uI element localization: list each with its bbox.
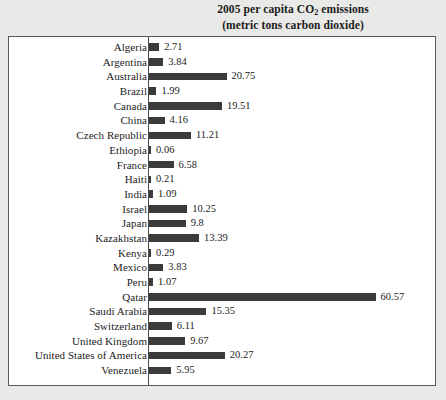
bar-value-label: 19.51	[227, 99, 251, 114]
bar-value-label: 9.67	[190, 334, 208, 349]
bar-track: 1.09	[149, 187, 444, 202]
bar-track: 15.35	[149, 304, 444, 319]
bar-track: 0.29	[149, 246, 444, 261]
bar-row: Peru1.07	[0, 275, 446, 290]
bar-row: Australia20.75	[0, 69, 446, 84]
bar-track: 1.99	[149, 84, 444, 99]
bar-category-label: Switzerland	[94, 319, 147, 334]
bar-value-label: 1.09	[158, 187, 176, 202]
bar-row: Ethiopia0.06	[0, 143, 446, 158]
bar-row: India1.09	[0, 187, 446, 202]
bar-value-label: 20.75	[232, 69, 256, 84]
bar-category-label: Peru	[127, 275, 147, 290]
bar	[149, 367, 171, 375]
bar-category-label: France	[117, 158, 147, 173]
bar	[149, 308, 206, 316]
bar-row: Israel10.25	[0, 202, 446, 217]
bar-category-label: Venezuela	[101, 363, 147, 378]
bar-value-label: 5.95	[176, 363, 194, 378]
bar-value-label: 1.99	[161, 84, 179, 99]
bar-track: 9.8	[149, 216, 444, 231]
bar-value-label: 3.84	[168, 55, 186, 70]
chart-subtitle: (metric tons carbon dioxide)	[148, 18, 438, 32]
bar	[149, 58, 163, 66]
bar-category-label: Haiti	[125, 172, 147, 187]
bar	[149, 278, 153, 286]
bar-category-label: Argentina	[103, 55, 147, 70]
bar-track: 19.51	[149, 99, 444, 114]
bar-category-label: Saudi Arabia	[89, 304, 147, 319]
bar-category-label: Kazakhstan	[95, 231, 147, 246]
bar-value-label: 10.25	[192, 202, 216, 217]
chart-figure: 2005 per capita CO2 emissions (metric to…	[0, 0, 446, 400]
bar-value-label: 15.35	[211, 304, 235, 319]
bar-row: Brazil1.99	[0, 84, 446, 99]
bar-row: Japan9.8	[0, 216, 446, 231]
bar-value-label: 4.16	[170, 113, 188, 128]
bar-row: Argentina3.84	[0, 55, 446, 70]
bar-row: Czech Republic11.21	[0, 128, 446, 143]
bar-value-label: 2.71	[164, 40, 182, 55]
bar-category-label: Mexico	[113, 260, 147, 275]
bar-value-label: 6.11	[177, 319, 195, 334]
bar-row: Algeria2.71	[0, 40, 446, 55]
bar-row: China4.16	[0, 113, 446, 128]
bar-track: 1.07	[149, 275, 444, 290]
bar-category-label: United States of America	[35, 348, 147, 363]
bar-track: 11.21	[149, 128, 444, 143]
bar-value-label: 3.83	[168, 260, 186, 275]
bar-row: Canada19.51	[0, 99, 446, 114]
bar	[149, 352, 225, 360]
bar-value-label: 0.21	[156, 172, 174, 187]
bar-value-label: 6.58	[179, 158, 197, 173]
bar-category-label: Qatar	[122, 290, 147, 305]
bar	[149, 102, 222, 110]
bar-category-label: Brazil	[120, 84, 147, 99]
bar	[149, 146, 151, 154]
bar-track: 60.57	[149, 290, 444, 305]
bar-track: 20.27	[149, 348, 444, 363]
bar-track: 20.75	[149, 69, 444, 84]
bar-row: Kazakhstan13.39	[0, 231, 446, 246]
bar	[149, 249, 151, 257]
bar-category-label: Australia	[106, 69, 147, 84]
bar-track: 6.11	[149, 319, 444, 334]
bar	[149, 161, 174, 169]
bar-track: 3.83	[149, 260, 444, 275]
bar-track: 2.71	[149, 40, 444, 55]
bar-track: 6.58	[149, 158, 444, 173]
bar	[149, 234, 199, 242]
bar	[149, 190, 153, 198]
chart-title-line-1: 2005 per capita CO2 emissions	[148, 2, 438, 18]
bar-value-label: 20.27	[230, 348, 254, 363]
chart-title-prefix: 2005 per capita CO	[217, 3, 314, 15]
bar	[149, 87, 156, 95]
bar	[149, 337, 185, 345]
bar	[149, 43, 159, 51]
bar-category-label: Kenya	[118, 246, 147, 261]
bar-track: 13.39	[149, 231, 444, 246]
bar-value-label: 13.39	[204, 231, 228, 246]
bar-row: Haiti0.21	[0, 172, 446, 187]
bar-value-label: 60.57	[381, 290, 405, 305]
bar-track: 3.84	[149, 55, 444, 70]
co2-subscript: 2	[314, 8, 318, 17]
bar-row: Mexico3.83	[0, 260, 446, 275]
bar-category-label: Japan	[122, 216, 147, 231]
bar	[149, 293, 376, 301]
bar	[149, 322, 172, 330]
chart-title-suffix: emissions	[318, 3, 369, 15]
bar	[149, 132, 191, 140]
bar	[149, 73, 227, 81]
bar-track: 0.21	[149, 172, 444, 187]
bar-row: United States of America20.27	[0, 348, 446, 363]
bar-category-label: United Kingdom	[72, 334, 147, 349]
bar-row: France6.58	[0, 158, 446, 173]
bar-track: 5.95	[149, 363, 444, 378]
bar-value-label: 0.06	[156, 143, 174, 158]
bar-row: Qatar60.57	[0, 290, 446, 305]
bar-value-label: 0.29	[156, 246, 174, 261]
bar	[149, 264, 163, 272]
bar-track: 9.67	[149, 334, 444, 349]
bar-category-label: Canada	[114, 99, 147, 114]
